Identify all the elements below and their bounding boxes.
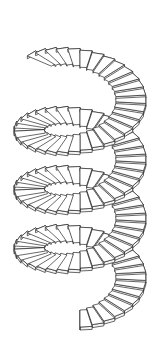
step-tread bbox=[116, 215, 146, 222]
step-tread bbox=[116, 274, 146, 281]
step-tread bbox=[116, 156, 146, 163]
spiral-staircase-figure bbox=[0, 0, 157, 351]
step-tread bbox=[116, 97, 146, 104]
spiral-staircase-drawing bbox=[0, 0, 157, 351]
